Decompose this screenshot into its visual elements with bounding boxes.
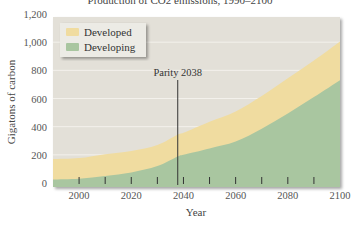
y-axis-title: Gigatons of carbon: [5, 59, 17, 144]
chart-canvas: Parity 203802004006008001,0001,200200020…: [0, 0, 360, 231]
x-tick-label: 2020: [121, 190, 142, 201]
y-tick-label: 0: [42, 178, 47, 189]
x-tick-label: 2100: [330, 190, 351, 201]
legend-label: Developing: [84, 41, 136, 53]
y-tick-label: 800: [31, 65, 47, 76]
x-tick-label: 2000: [69, 190, 90, 201]
x-tick-label: 2040: [173, 190, 194, 201]
y-tick-label: 1,000: [23, 37, 47, 48]
y-tick-label: 600: [31, 94, 47, 105]
parity-annotation: Parity 2038: [153, 67, 202, 78]
legend-swatch: [66, 43, 79, 51]
legend-label: Developed: [84, 26, 132, 38]
x-tick-label: 2060: [225, 190, 246, 201]
x-tick-label: 2080: [277, 190, 298, 201]
legend: DevelopedDeveloping: [60, 23, 146, 57]
y-tick-label: 200: [31, 150, 47, 161]
y-tick-label: 400: [31, 122, 47, 133]
plot-area: Parity 203802004006008001,0001,200200020…: [5, 9, 351, 218]
y-tick-label: 1,200: [23, 9, 47, 20]
x-axis-title: Year: [186, 206, 207, 218]
legend-swatch: [66, 28, 79, 36]
